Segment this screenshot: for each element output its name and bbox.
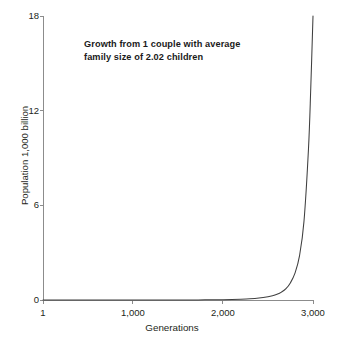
y-tick-label: 0 — [34, 295, 39, 305]
y-tick-label: 18 — [28, 11, 39, 21]
y-tick-label: 6 — [34, 200, 39, 210]
x-axis-ticks — [43, 300, 313, 304]
y-tick-label: 12 — [28, 106, 39, 116]
x-tick-label: 2,000 — [211, 307, 235, 318]
population-growth-chart: Growth from 1 couple with average family… — [0, 0, 344, 351]
chart-title: Growth from 1 couple with average family… — [84, 38, 284, 64]
x-axis-label: Generations — [0, 322, 344, 333]
x-tick-label: 1 — [40, 307, 45, 318]
x-tick-label: 1,000 — [121, 307, 145, 318]
x-tick-label: 3,000 — [301, 307, 325, 318]
